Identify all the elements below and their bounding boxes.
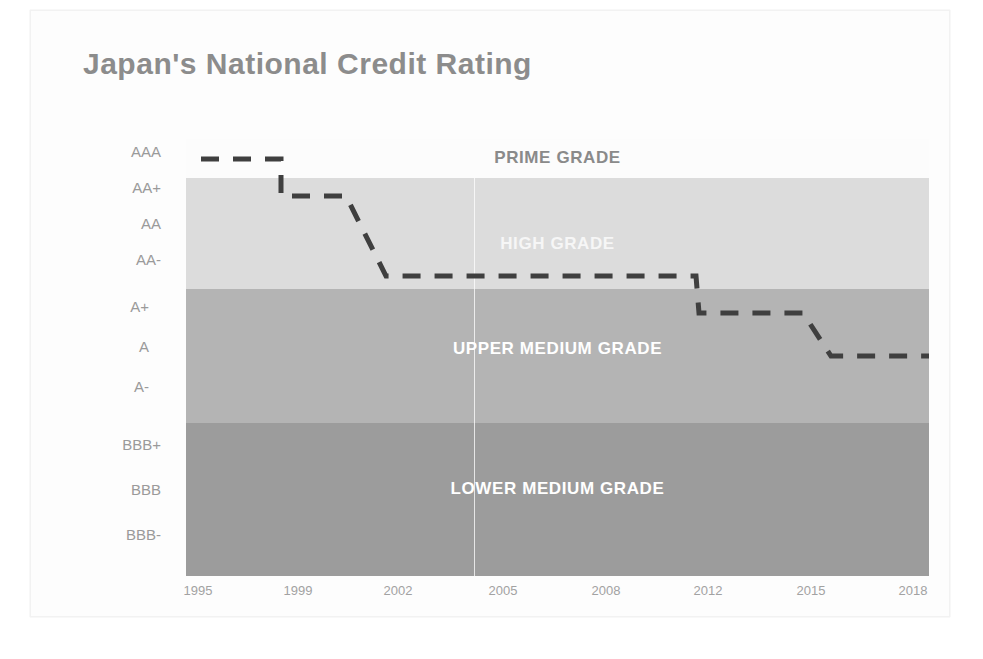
x-tick-2015: 2015 bbox=[797, 583, 826, 598]
band-prime-grade: PRIME GRADE bbox=[186, 139, 929, 178]
band-label-upper-medium: UPPER MEDIUM GRADE bbox=[186, 339, 929, 359]
x-tick-2002: 2002 bbox=[384, 583, 413, 598]
x-axis: 1995 1999 2002 2005 2008 2012 2015 2018 bbox=[31, 583, 983, 613]
y-tick-a-plus: A+ bbox=[31, 298, 149, 315]
y-tick-aa: AA bbox=[31, 215, 161, 232]
band-high-grade: HIGH GRADE bbox=[186, 178, 929, 289]
band-upper-medium-grade: UPPER MEDIUM GRADE bbox=[186, 289, 929, 423]
chart-card: Japan's National Credit Rating AAA AA+ A… bbox=[30, 10, 950, 617]
band-label-high: HIGH GRADE bbox=[186, 234, 929, 254]
x-tick-2012: 2012 bbox=[694, 583, 723, 598]
x-tick-1999: 1999 bbox=[284, 583, 313, 598]
x-tick-2005: 2005 bbox=[489, 583, 518, 598]
y-axis: AAA AA+ AA AA- A+ A A- BBB+ BBB BBB- bbox=[31, 131, 179, 581]
band-label-lower-medium: LOWER MEDIUM GRADE bbox=[186, 479, 929, 499]
x-tick-2018: 2018 bbox=[899, 583, 928, 598]
y-tick-aa-plus: AA+ bbox=[31, 179, 161, 196]
band-label-prime: PRIME GRADE bbox=[186, 148, 929, 168]
y-tick-aaa: AAA bbox=[31, 143, 161, 160]
page-title: Japan's National Credit Rating bbox=[83, 47, 532, 81]
x-tick-1995: 1995 bbox=[184, 583, 213, 598]
y-tick-bbb-minus: BBB- bbox=[31, 526, 161, 543]
plot-area: PRIME GRADE HIGH GRADE UPPER MEDIUM GRAD… bbox=[186, 139, 929, 576]
band-lower-medium-grade: LOWER MEDIUM GRADE bbox=[186, 423, 929, 576]
y-tick-a-minus: A- bbox=[31, 378, 149, 395]
y-tick-bbb-plus: BBB+ bbox=[31, 436, 161, 453]
y-tick-a: A bbox=[31, 338, 149, 355]
y-tick-aa-minus: AA- bbox=[31, 251, 161, 268]
y-tick-bbb: BBB bbox=[31, 481, 161, 498]
gridline-vertical bbox=[474, 178, 475, 576]
x-tick-2008: 2008 bbox=[592, 583, 621, 598]
